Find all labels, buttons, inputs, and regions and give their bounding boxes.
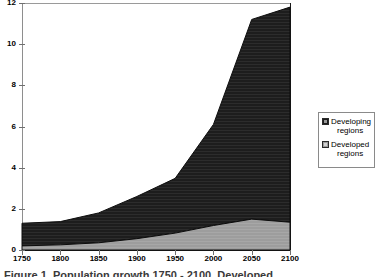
x-tick-label-1950: 1950 — [158, 254, 192, 263]
x-tick-label-2000: 2000 — [196, 254, 230, 263]
legend-item-developed-regions: Developedregions — [322, 140, 372, 158]
population-growth-figure: 024681012 175018001850190019502000205021… — [0, 0, 378, 277]
figure-caption: Figure 1. Population growth 1750 - 2100,… — [4, 269, 374, 277]
y-tick-label-6: 6 — [0, 123, 16, 131]
y-tick-label-4: 4 — [0, 164, 16, 172]
y-tick-label-8: 8 — [0, 81, 16, 89]
legend-label-developed-regions: Developedregions — [331, 140, 369, 158]
legend-swatch-developing-icon — [322, 118, 329, 125]
y-tick-12 — [19, 3, 25, 4]
y-tick-2 — [19, 209, 25, 210]
chart-legend: Developingregions Developedregions — [318, 112, 375, 168]
y-tick-6 — [19, 127, 25, 128]
y-tick-label-12: 12 — [0, 0, 16, 7]
x-tick-label-1750: 1750 — [5, 254, 39, 263]
y-tick-label-10: 10 — [0, 40, 16, 48]
x-tick-label-1800: 1800 — [43, 254, 77, 263]
legend-label-developing-regions: Developingregions — [331, 117, 371, 135]
y-tick-4 — [19, 168, 25, 169]
x-tick-label-2050: 2050 — [235, 254, 269, 263]
legend-item-developing-regions: Developingregions — [322, 117, 372, 135]
y-tick-label-2: 2 — [0, 205, 16, 213]
y-tick-label-0: 0 — [0, 246, 16, 254]
x-tick-label-1850: 1850 — [82, 254, 116, 263]
legend-swatch-developed-icon — [322, 141, 329, 148]
area-developing-regions — [22, 7, 290, 246]
y-tick-10 — [19, 44, 25, 45]
x-tick-label-1900: 1900 — [120, 254, 154, 263]
x-tick-label-2100: 2100 — [273, 254, 307, 263]
y-tick-8 — [19, 85, 25, 86]
